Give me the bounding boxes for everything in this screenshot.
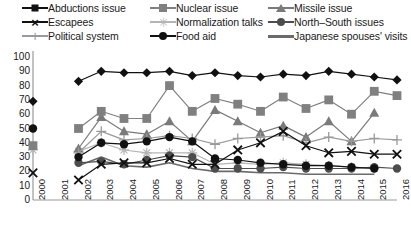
legend-label: Abductions issue <box>48 3 126 14</box>
x-tick-label: 2003 <box>105 179 115 200</box>
data-point <box>324 116 334 125</box>
data-point <box>120 114 129 123</box>
x-tick-label: 2001 <box>60 179 70 200</box>
data-point <box>119 126 129 135</box>
legend-label: Nuclear issue <box>176 3 238 14</box>
data-point <box>211 94 220 103</box>
data-point <box>28 97 37 106</box>
legend-item[interactable]: Food aid <box>150 30 216 42</box>
data-point <box>29 124 37 132</box>
data-point <box>120 140 128 148</box>
data-point <box>142 114 151 123</box>
diamond-icon <box>22 2 48 14</box>
data-point <box>347 110 356 119</box>
x-tick-label: 2016 <box>401 179 411 200</box>
data-point <box>392 135 402 145</box>
legend-label: Escapees <box>48 17 93 28</box>
x-tick-label: 2005 <box>151 179 161 200</box>
series-missile-issue <box>74 105 380 153</box>
data-point <box>369 134 379 144</box>
data-point <box>119 68 128 77</box>
square-icon <box>150 2 176 14</box>
data-point <box>97 67 106 76</box>
x-icon: × <box>22 16 48 28</box>
data-point <box>188 71 197 80</box>
data-point <box>256 159 264 167</box>
line-icon <box>268 30 294 42</box>
legend-item[interactable]: ✳Normalization talks <box>150 16 263 28</box>
data-point <box>165 116 175 125</box>
triangle-icon <box>268 2 294 14</box>
data-point <box>370 164 378 172</box>
data-point <box>233 134 243 144</box>
x-tick-label: 2009 <box>242 179 252 200</box>
x-tick-label: 2002 <box>83 179 93 200</box>
legend-label: Japanese spouses' visits <box>294 31 407 42</box>
x-tick-label: 2008 <box>219 179 229 200</box>
data-point <box>279 160 287 168</box>
data-point <box>370 72 379 81</box>
legend-item[interactable]: Abductions issue <box>22 2 126 14</box>
legend-label: Food aid <box>176 31 216 42</box>
data-point <box>142 68 151 77</box>
x-tick-label: 2014 <box>356 179 366 200</box>
data-point <box>234 146 242 154</box>
data-point <box>370 87 379 96</box>
data-point <box>393 164 401 172</box>
data-point <box>301 71 310 80</box>
data-point <box>188 107 197 116</box>
data-point <box>324 96 333 105</box>
plus-icon: + <box>22 30 48 42</box>
legend-item[interactable]: ×Escapees <box>22 16 93 28</box>
chart-legend: Abductions issue×Escapees+Political syst… <box>0 0 404 46</box>
data-point <box>393 91 402 100</box>
x-tick-label: 2011 <box>287 180 297 200</box>
data-point <box>165 133 173 141</box>
data-point <box>120 160 128 168</box>
x-tick-label: 2015 <box>378 179 388 200</box>
circle-mid-icon <box>268 16 294 28</box>
x-tick-label: 2013 <box>333 179 343 200</box>
data-point <box>279 70 288 79</box>
x-tick-label: 2004 <box>128 179 138 200</box>
data-point <box>74 124 83 133</box>
data-point <box>347 163 355 171</box>
data-point <box>74 153 82 161</box>
data-point <box>392 75 401 84</box>
data-point <box>234 164 242 172</box>
data-point <box>347 70 356 79</box>
data-point <box>210 105 220 114</box>
data-point <box>325 161 333 169</box>
legend-item[interactable]: +Political system <box>22 30 119 42</box>
x-tick-label: 2006 <box>174 179 184 200</box>
data-point <box>29 141 38 150</box>
data-point <box>165 81 174 90</box>
data-point <box>233 71 242 80</box>
data-point <box>210 139 220 149</box>
data-point <box>211 164 219 172</box>
legend-item[interactable]: Missile issue <box>268 2 352 14</box>
legend-item[interactable]: Nuclear issue <box>150 2 238 14</box>
data-point <box>188 137 196 145</box>
data-point <box>256 107 265 116</box>
legend-label: Normalization talks <box>176 17 263 28</box>
data-point <box>279 93 288 102</box>
legend-label: Missile issue <box>294 3 352 14</box>
data-point <box>97 107 106 116</box>
star-icon: ✳ <box>150 16 176 28</box>
data-point <box>324 132 334 142</box>
data-point <box>233 100 242 109</box>
plot-area: 1009080706050403020100 20002001200220032… <box>0 46 404 249</box>
data-point <box>302 104 311 113</box>
data-point <box>74 77 83 86</box>
figure-caption <box>0 238 404 249</box>
legend-item[interactable]: Japanese spouses' visits <box>268 30 407 42</box>
legend-item[interactable]: North–South issues <box>268 16 384 28</box>
data-point <box>234 156 242 164</box>
data-point <box>143 137 151 145</box>
x-tick-label: 2010 <box>265 179 275 200</box>
data-point <box>324 67 333 76</box>
legend-label: Political system <box>48 31 119 42</box>
data-point <box>369 108 379 117</box>
